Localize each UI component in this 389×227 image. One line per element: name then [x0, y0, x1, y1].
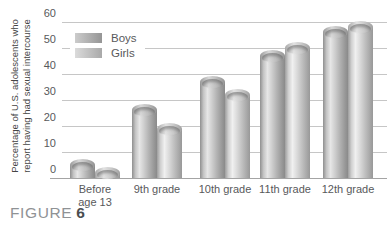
bar-cap-notch	[72, 162, 94, 172]
bar-girls-12th-grade	[348, 27, 373, 178]
bar-cap-notch	[350, 24, 372, 34]
legend-swatch-boys	[75, 33, 102, 43]
y-tick-label-40: 40	[26, 59, 56, 72]
bar-cap-notch	[97, 170, 119, 180]
y-tick-label-50: 50	[26, 33, 56, 46]
bar-girls-9th-grade	[157, 129, 182, 178]
bar-boys-9th-grade	[132, 110, 157, 178]
legend-item-girls: Girls	[75, 45, 137, 60]
bar-cap-notch	[134, 107, 156, 117]
bar-boys-12th-grade	[323, 32, 348, 178]
legend-swatch-girls	[75, 48, 102, 58]
bar-cap-notch	[227, 92, 249, 102]
y-tick-label-30: 30	[26, 85, 56, 98]
x-label-9th-grade: 9th grade	[119, 183, 195, 196]
legend-item-boys: Boys	[75, 30, 137, 45]
bar-girls-before-age-13	[95, 173, 120, 178]
y-tick-label-60: 60	[26, 7, 56, 20]
figure-caption-prefix: FIGURE	[10, 204, 72, 221]
y-tick-label-10: 10	[26, 137, 56, 150]
y-tick-label-0: 0	[26, 163, 56, 176]
x-label-before-age-13: Before age 13	[72, 183, 118, 209]
bar-girls-11th-grade	[285, 48, 310, 178]
bar-cap-notch	[262, 53, 284, 63]
plot-area: 0102030405060Before age 139th grade10th …	[0, 0, 389, 227]
gridline-60	[62, 22, 387, 23]
bar-cap-notch	[159, 126, 181, 136]
bar-girls-10th-grade	[225, 95, 250, 178]
figure-panel: Percentage of U.S. adolescents who repor…	[0, 0, 389, 227]
bar-cap-notch	[202, 79, 224, 89]
y-tick-label-20: 20	[26, 111, 56, 124]
bar-cap-notch	[287, 45, 309, 55]
bar-boys-10th-grade	[200, 82, 225, 178]
bar-boys-before-age-13	[70, 165, 95, 178]
bar-boys-11th-grade	[260, 56, 285, 178]
x-label-12th-grade: 12th grade	[310, 183, 386, 196]
bar-cap-notch	[325, 29, 347, 39]
legend-label-girls: Girls	[111, 47, 135, 59]
legend-label-boys: Boys	[111, 32, 137, 44]
legend: BoysGirls	[70, 27, 145, 63]
